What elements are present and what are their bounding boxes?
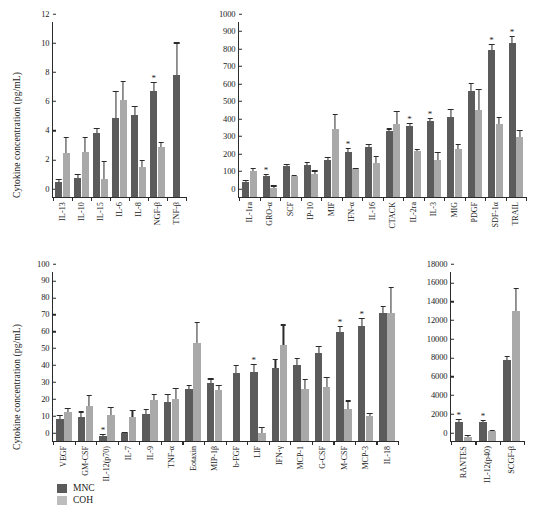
bar-mnc[interactable] — [233, 373, 241, 441]
bar-mnc[interactable] — [324, 160, 331, 197]
bar-coh[interactable] — [516, 137, 523, 197]
bar-mnc[interactable]: * — [488, 50, 495, 197]
bar-coh[interactable] — [215, 390, 223, 441]
bar-group[interactable]: *TRAIL — [506, 22, 527, 197]
bar-group[interactable]: b-FGF — [226, 272, 248, 441]
bar-coh[interactable] — [373, 163, 380, 197]
bar-coh[interactable] — [258, 433, 266, 441]
bar-group[interactable]: MIP-1β — [204, 272, 226, 441]
bar-coh[interactable] — [488, 431, 496, 441]
bar-group[interactable]: IL-9 — [139, 272, 161, 441]
bar-mnc[interactable]: * — [406, 126, 413, 197]
bar-coh[interactable] — [129, 417, 137, 442]
bar-mnc[interactable] — [131, 115, 138, 197]
bar-mnc[interactable]: * — [250, 372, 258, 441]
bar-group[interactable]: IL-10 — [72, 22, 91, 197]
bar-group[interactable]: IL-13 — [53, 22, 72, 197]
bar-mnc[interactable] — [315, 353, 323, 441]
bar-group[interactable]: SCF — [280, 22, 301, 197]
bar-group[interactable]: IL-18 — [376, 272, 398, 441]
bar-group[interactable]: VEGF — [53, 272, 75, 441]
bar-group[interactable]: *LIF — [247, 272, 269, 441]
bar-coh[interactable] — [172, 399, 180, 441]
bar-group[interactable]: *RANTES — [451, 272, 475, 441]
bar-mnc[interactable] — [283, 166, 290, 197]
bar-coh[interactable] — [193, 343, 201, 441]
bar-coh[interactable] — [82, 152, 89, 197]
bar-mnc[interactable] — [293, 365, 301, 441]
bar-mnc[interactable] — [74, 178, 81, 197]
bar-mnc[interactable] — [185, 389, 193, 441]
bar-mnc[interactable] — [468, 91, 475, 197]
bar-group[interactable]: G-CSF — [312, 272, 334, 441]
bar-group[interactable]: PDGF — [465, 22, 486, 197]
bar-group[interactable]: *MCP-3 — [355, 272, 377, 441]
bar-coh[interactable] — [344, 409, 352, 441]
bar-group[interactable]: TNF-β — [167, 22, 186, 197]
bar-mnc[interactable]: * — [345, 152, 352, 197]
bar-mnc[interactable] — [272, 368, 280, 441]
bar-mnc[interactable] — [93, 133, 100, 197]
bar-mnc[interactable]: * — [336, 332, 344, 441]
bar-coh[interactable] — [120, 100, 127, 197]
bar-group[interactable]: *IL-2ra — [403, 22, 424, 197]
bar-coh[interactable] — [475, 110, 482, 197]
bar-group[interactable]: *IL-12(p40) — [475, 272, 499, 441]
bar-coh[interactable] — [280, 345, 288, 441]
bar-mnc[interactable] — [142, 414, 150, 441]
bar-coh[interactable] — [291, 176, 298, 197]
bar-mnc[interactable]: * — [427, 121, 434, 197]
bar-group[interactable]: MIF — [321, 22, 342, 197]
bar-group[interactable]: IFN-γ — [269, 272, 291, 441]
bar-group[interactable]: IL-8 — [129, 22, 148, 197]
bar-mnc[interactable] — [173, 75, 180, 198]
bar-coh[interactable] — [301, 389, 309, 441]
bar-coh[interactable] — [101, 179, 108, 197]
bar-mnc[interactable]: * — [358, 326, 366, 441]
bar-coh[interactable] — [414, 151, 421, 197]
bar-group[interactable]: CTACK — [383, 22, 404, 197]
bar-coh[interactable] — [64, 412, 72, 441]
bar-coh[interactable] — [107, 415, 115, 441]
bar-coh[interactable] — [352, 169, 359, 197]
bar-group[interactable]: IL-6 — [110, 22, 129, 197]
bar-coh[interactable] — [63, 153, 70, 197]
bar-coh[interactable] — [86, 406, 94, 441]
bar-group[interactable]: *IL-12(p70) — [96, 272, 118, 441]
bar-mnc[interactable] — [112, 118, 119, 197]
bar-coh[interactable] — [158, 147, 165, 197]
bar-mnc[interactable]: * — [150, 91, 157, 197]
bar-mnc[interactable] — [164, 402, 172, 441]
bar-group[interactable]: *NGF-β — [148, 22, 167, 197]
bar-group[interactable]: Eotaxin — [182, 272, 204, 441]
bar-mnc[interactable] — [56, 419, 64, 441]
bar-mnc[interactable] — [78, 417, 86, 441]
bar-coh[interactable] — [393, 124, 400, 198]
bar-group[interactable]: IL-1ra — [239, 22, 260, 197]
bar-mnc[interactable] — [55, 182, 62, 197]
bar-mnc[interactable] — [386, 131, 393, 198]
bar-coh[interactable] — [311, 174, 318, 197]
bar-coh[interactable] — [455, 149, 462, 197]
bar-coh[interactable] — [332, 129, 339, 197]
bar-group[interactable]: IL-7 — [118, 272, 140, 441]
bar-mnc[interactable] — [365, 147, 372, 197]
bar-mnc[interactable]: * — [263, 176, 270, 197]
bar-mnc[interactable]: * — [455, 422, 463, 441]
bar-mnc[interactable]: * — [479, 422, 487, 441]
bar-coh[interactable] — [512, 311, 520, 441]
bar-coh[interactable] — [387, 313, 395, 441]
bar-group[interactable]: SCGF-β — [500, 272, 524, 441]
bar-group[interactable]: IL-16 — [362, 22, 383, 197]
bar-group[interactable]: GM-CSF — [75, 272, 97, 441]
bar-mnc[interactable] — [207, 383, 215, 441]
bar-coh[interactable] — [434, 160, 441, 197]
bar-coh[interactable] — [150, 400, 158, 441]
bar-coh[interactable] — [250, 171, 257, 197]
bar-group[interactable]: *M-CSF — [333, 272, 355, 441]
bar-coh[interactable] — [464, 437, 472, 442]
bar-mnc[interactable] — [379, 313, 387, 441]
bar-mnc[interactable] — [503, 360, 511, 441]
bar-coh[interactable] — [323, 387, 331, 441]
bar-group[interactable]: MIG — [444, 22, 465, 197]
